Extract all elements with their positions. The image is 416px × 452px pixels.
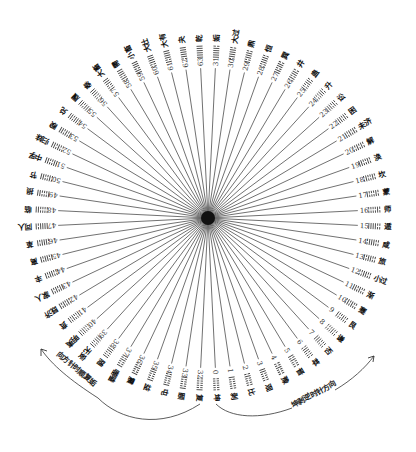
hexagram-name: 解 [365, 135, 377, 147]
spoke-19 [208, 167, 349, 218]
yin-line [50, 159, 51, 161]
yin-line [277, 370, 279, 371]
yin-line [292, 356, 294, 357]
spoke-51 [67, 167, 208, 218]
yang-line [51, 289, 54, 294]
yin-line [295, 360, 297, 361]
hexagram-name: 师 [384, 204, 392, 214]
yin-line [366, 258, 367, 260]
hexagram-label: 30大过 [225, 28, 241, 68]
yin-line [57, 286, 58, 288]
yang-line [361, 160, 363, 166]
yin-line [96, 343, 98, 345]
hexagram-label: 46革 [25, 236, 58, 251]
yin-line [308, 78, 310, 79]
yang-line [82, 328, 86, 332]
yin-line [274, 364, 276, 365]
yin-line [108, 87, 110, 88]
hexagram-label: 13旅 [354, 250, 387, 267]
yin-line [49, 255, 50, 257]
yin-line [333, 334, 335, 336]
yin-line [244, 374, 246, 375]
yang-line [275, 69, 280, 72]
yin-line [250, 384, 252, 385]
yang-line [356, 145, 359, 150]
yin-line [333, 106, 335, 108]
hexagram-number: 43 [61, 279, 72, 290]
yin-line [250, 382, 252, 383]
spoke-44 [67, 218, 208, 269]
hexagram-name: 姤 [211, 34, 221, 42]
yin-line [149, 373, 151, 374]
yin-line [66, 135, 67, 137]
yin-line [136, 372, 138, 373]
yin-line [267, 379, 269, 380]
hexagram-number: 3 [255, 360, 264, 367]
yin-line [307, 85, 309, 86]
hexagram-name: 损 [25, 186, 34, 197]
yin-line [122, 356, 124, 357]
yang-line [246, 55, 252, 56]
yin-line [348, 135, 349, 137]
hexagram-number: 11 [343, 280, 354, 291]
hexagram-name: 艮 [347, 319, 359, 331]
hexagram-label: 33颐 [176, 368, 191, 401]
hexagram-number: 20 [344, 146, 355, 157]
yin-line [354, 127, 355, 129]
yin-line [153, 374, 155, 375]
hexagram-name: 乾 [194, 34, 204, 42]
hexagram-number: 44 [54, 265, 66, 276]
yin-line [164, 380, 166, 381]
yin-line [43, 260, 44, 262]
hexagram-number: 23 [318, 107, 330, 119]
hexagram-name: 履 [68, 91, 81, 104]
yang-line [165, 57, 171, 58]
yin-line [267, 56, 269, 57]
yang-line [180, 52, 186, 53]
yin-line [168, 381, 170, 382]
yin-line [107, 85, 109, 86]
yin-line [245, 379, 247, 380]
yang-line [59, 285, 62, 290]
spoke-28 [208, 77, 259, 218]
spoke-5 [208, 218, 285, 347]
yang-line [53, 143, 56, 148]
yin-line [307, 355, 309, 356]
counterclockwise-label: 坤剥逆时针方向 [289, 378, 337, 410]
hexagram-name: 巽 [279, 49, 291, 61]
hexagram-name: 困 [347, 105, 359, 117]
yin-line [88, 328, 90, 330]
yin-line [278, 364, 280, 365]
yang-line [40, 190, 41, 196]
yin-line [362, 270, 363, 272]
spoke-60 [157, 77, 208, 218]
yin-line [83, 332, 85, 334]
yin-line [72, 119, 73, 121]
hexagram-name: 明夷 [63, 333, 81, 350]
yin-line [53, 288, 54, 290]
yin-line [352, 306, 353, 308]
hexagram-label: 35益 [141, 359, 161, 392]
yin-line [341, 314, 342, 316]
yin-line [120, 76, 122, 77]
yin-line [263, 55, 265, 56]
yang-line [229, 377, 235, 378]
hexagram-name: 丰 [33, 273, 44, 285]
yin-line [347, 116, 348, 118]
yang-line [132, 372, 137, 375]
yin-line [329, 325, 331, 327]
hexagram-name: 益 [141, 382, 153, 393]
yin-line [304, 83, 306, 84]
yin-line [373, 256, 374, 258]
yin-line [360, 147, 361, 149]
yang-line [276, 366, 281, 369]
yin-line [50, 258, 51, 260]
yang-line [277, 65, 282, 68]
yin-line [86, 330, 88, 332]
yin-line [350, 300, 351, 302]
hexagram-name: 需 [109, 58, 122, 70]
yin-line [265, 375, 267, 376]
yin-line [250, 51, 252, 52]
yin-line [363, 159, 364, 161]
yin-line [336, 103, 338, 105]
